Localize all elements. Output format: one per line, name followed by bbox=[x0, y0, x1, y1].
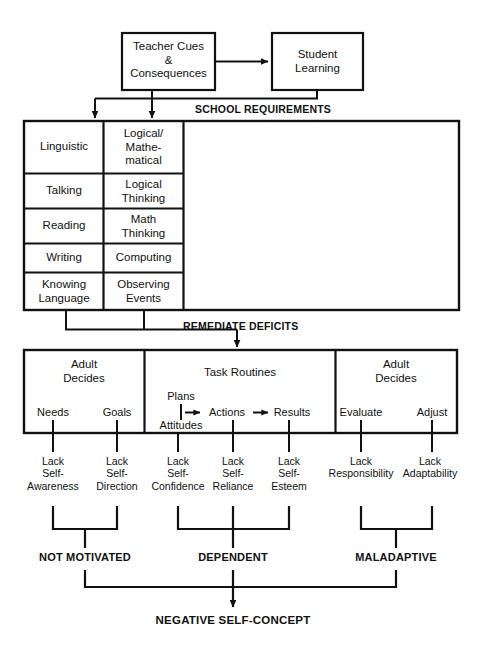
panel-title-adult-decides-right: Adult Decides bbox=[337, 358, 455, 385]
table-cell-right-4: Computing bbox=[105, 251, 183, 265]
diagram-canvas: Teacher Cues & Consequences Student Lear… bbox=[0, 0, 481, 645]
outcome-dependent: DEPENDENT bbox=[168, 551, 298, 564]
bracket-maladaptive bbox=[361, 506, 432, 529]
panel-title-adult-decides-left: Adult Decides bbox=[25, 358, 143, 385]
item-results: Results bbox=[264, 406, 320, 419]
item-actions: Actions bbox=[198, 406, 256, 419]
item-needs: Needs bbox=[18, 406, 88, 419]
final-outcome-negative-self-concept: NEGATIVE SELF-CONCEPT bbox=[113, 614, 353, 628]
deficit-self-esteem: Lack Self- Esteem bbox=[258, 455, 320, 492]
bus-school-requirements bbox=[95, 91, 317, 99]
table-cell-left-1: Linguistic bbox=[25, 140, 103, 154]
heading-remediate-deficits: REMEDIATE DEFICITS bbox=[183, 320, 363, 332]
heading-school-requirements: SCHOOL REQUIREMENTS bbox=[195, 103, 375, 115]
bracket-not-motivated bbox=[53, 506, 117, 529]
deficit-self-reliance: Lack Self- Reliance bbox=[200, 455, 266, 492]
box-student-learning-label: Student Learning bbox=[273, 48, 363, 75]
outcome-maladaptive: MALADAPTIVE bbox=[326, 551, 466, 564]
table-cell-right-2: Logical Thinking bbox=[105, 178, 183, 205]
deficit-adaptability: Lack Adaptability bbox=[384, 455, 476, 480]
deficit-self-awareness: Lack Self- Awareness bbox=[17, 455, 89, 492]
outcome-not-motivated: NOT MOTIVATED bbox=[15, 551, 155, 564]
bracket-dependent bbox=[178, 506, 289, 529]
item-adjust: Adjust bbox=[397, 406, 467, 419]
table-cell-right-1: Logical/ Mathe- matical bbox=[105, 127, 183, 168]
table-cell-left-2: Talking bbox=[25, 184, 103, 198]
item-goals: Goals bbox=[82, 406, 152, 419]
table-cell-right-5: Observing Events bbox=[105, 278, 183, 305]
table-cell-left-3: Reading bbox=[25, 219, 103, 233]
item-evaluate: Evaluate bbox=[323, 406, 399, 419]
bracket-final bbox=[85, 570, 396, 587]
box-teacher-cues-label: Teacher Cues & Consequences bbox=[123, 40, 215, 81]
table-cell-left-5: Knowing Language bbox=[25, 278, 103, 305]
panel-title-task-routines: Task Routines bbox=[150, 366, 330, 380]
item-plans: Plans bbox=[151, 390, 211, 403]
item-attitudes: Attitudes bbox=[146, 419, 216, 432]
table-cell-right-3: Math Thinking bbox=[105, 213, 183, 240]
table-cell-left-4: Writing bbox=[25, 251, 103, 265]
